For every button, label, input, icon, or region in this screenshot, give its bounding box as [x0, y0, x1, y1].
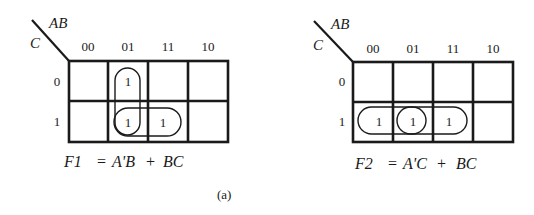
cell-value: 1 — [446, 114, 453, 129]
cell-value: 1 — [160, 115, 167, 130]
row-variable-label: C — [30, 35, 41, 51]
kmap-grid — [353, 62, 513, 142]
kmap-figure: AB C 00 01 11 10 0 1 1 1 1 F1 = A'B + BC… — [0, 0, 534, 215]
row-label: 1 — [339, 114, 346, 129]
cell-value: 1 — [125, 74, 132, 89]
kmap-grid — [69, 61, 228, 142]
column-variable-label: AB — [330, 16, 349, 32]
equation-term: BC — [163, 153, 184, 170]
equation-equals: = — [388, 155, 397, 172]
row-label: 0 — [339, 74, 346, 89]
figure-caption: (a) — [217, 187, 231, 202]
equation-lhs: F2 — [354, 155, 373, 172]
cell-value: 1 — [376, 114, 383, 129]
column-label: 01 — [122, 39, 135, 54]
column-label: 10 — [202, 39, 215, 54]
equation-plus: + — [437, 155, 446, 172]
column-label: 11 — [162, 39, 175, 54]
equation-plus: + — [146, 153, 155, 170]
column-variable-label: AB — [48, 15, 67, 31]
row-variable-label: C — [313, 37, 324, 53]
column-label: 10 — [487, 41, 500, 56]
equation-term: A'B — [111, 153, 135, 170]
equation-term: BC — [456, 155, 477, 172]
equation-lhs: F1 — [63, 153, 82, 170]
column-label: 11 — [447, 41, 460, 56]
column-label: 00 — [367, 41, 380, 56]
equation-term: A'C — [402, 155, 427, 172]
kmap-f2: AB C 00 01 11 10 0 1 1 1 1 F2 = A'C + BC — [313, 16, 513, 172]
row-label: 1 — [54, 114, 61, 129]
equation-equals: = — [97, 153, 106, 170]
kmap-f1: AB C 00 01 11 10 0 1 1 1 1 F1 = A'B + BC — [30, 15, 228, 170]
row-label: 0 — [54, 74, 61, 89]
cell-value: 1 — [125, 115, 132, 130]
cell-value: 1 — [410, 114, 417, 129]
column-label: 00 — [82, 39, 95, 54]
column-label: 01 — [407, 41, 420, 56]
